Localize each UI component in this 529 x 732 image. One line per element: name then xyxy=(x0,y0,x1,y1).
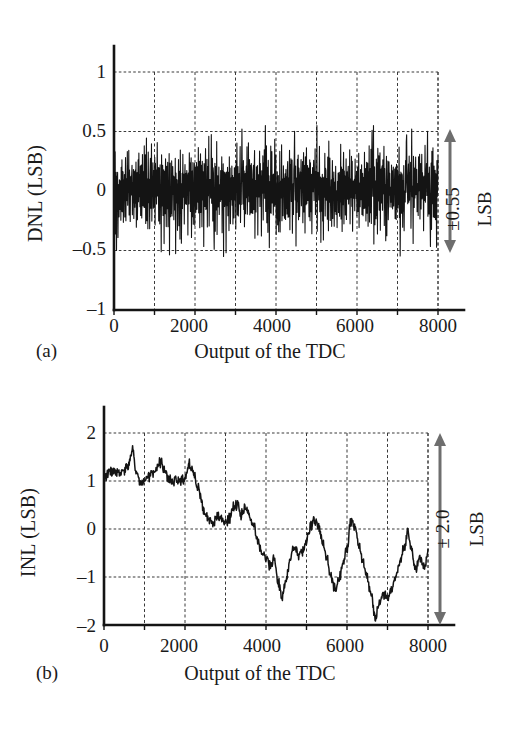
inl-xtick-2000: 2000 xyxy=(140,636,218,655)
inl-ytick-0: 0 xyxy=(50,519,96,538)
inl-ytick-2: 2 xyxy=(50,423,96,442)
inl-ytick-neg1: –1 xyxy=(36,567,96,586)
inl-xtick-4000: 4000 xyxy=(223,636,301,655)
inl-ytick-1: 1 xyxy=(50,471,96,490)
dnl-ytick-0p5: 0.5 xyxy=(46,121,106,140)
inl-range-value: ± 2.0 xyxy=(432,484,454,574)
dnl-range-unit: LSB xyxy=(474,164,496,254)
dnl-x-axis-title: Output of the TDC xyxy=(160,340,380,363)
dnl-xtick-6000: 6000 xyxy=(316,316,394,335)
dnl-xtick-8000: 8000 xyxy=(399,316,477,335)
inl-x-axis-title: Output of the TDC xyxy=(150,662,370,685)
dnl-y-axis-title: DNL (LSB) xyxy=(24,124,47,264)
inl-xtick-6000: 6000 xyxy=(306,636,384,655)
inl-xtick-0: 0 xyxy=(80,636,128,655)
figure-panel-b: 2 1 0 –1 –2 0 2000 4000 6000 8000 INL (L… xyxy=(0,366,529,732)
dnl-ytick-1: 1 xyxy=(60,62,106,81)
inl-range-unit: LSB xyxy=(466,484,488,574)
inl-xtick-8000: 8000 xyxy=(389,636,467,655)
dnl-xtick-4000: 4000 xyxy=(233,316,311,335)
dnl-xtick-2000: 2000 xyxy=(150,316,228,335)
dnl-xtick-0: 0 xyxy=(90,316,138,335)
dnl-range-value: ±0.55 xyxy=(442,164,464,254)
inl-y-axis-title: INL (LSB) xyxy=(17,463,40,603)
figure-panel-a: 1 0.5 0 –0.5 –1 0 2000 4000 6000 8000 DN… xyxy=(0,0,529,366)
panel-tag-b: (b) xyxy=(36,662,58,684)
inl-ytick-neg2: –2 xyxy=(36,616,96,635)
dnl-ytick-neg0p5: –0.5 xyxy=(40,239,106,258)
dnl-ytick-0: 0 xyxy=(60,180,106,199)
panel-tag-a: (a) xyxy=(36,340,57,362)
